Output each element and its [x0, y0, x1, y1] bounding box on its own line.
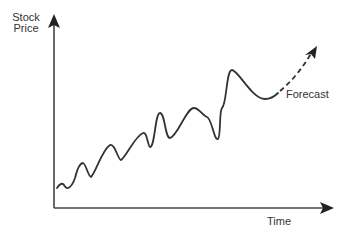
forecast-dashed-arrow [280, 52, 312, 91]
stock-price-diagram [0, 0, 343, 238]
forecast-arrow-icon [305, 46, 317, 59]
forecast-label: Forecast [286, 89, 329, 100]
x-axis-label: Time [267, 216, 291, 227]
price-curve [57, 70, 278, 188]
y-axis-label: Stock Price [8, 12, 44, 34]
y-axis-label-line2: Price [8, 23, 44, 34]
